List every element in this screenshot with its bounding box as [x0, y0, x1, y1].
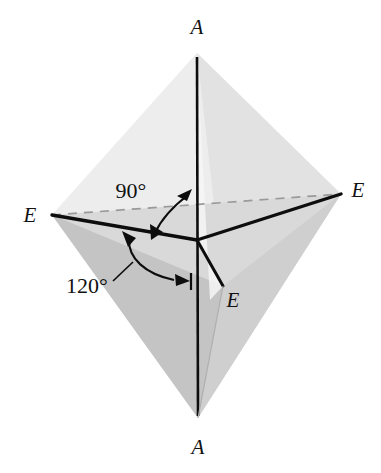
label-equatorial-left: E: [23, 203, 37, 227]
axial-axis-line: [197, 57, 198, 416]
trigonal-bipyramid-diagram: A A E E E 90° 120°: [0, 0, 381, 473]
label-angle-120: 120°: [66, 273, 108, 298]
label-equatorial-right: E: [351, 178, 365, 202]
label-angle-90: 90°: [116, 178, 147, 203]
label-axial-top: A: [189, 15, 204, 39]
label-equatorial-front: E: [226, 288, 240, 312]
figure-container: A A E E E 90° 120°: [0, 0, 381, 473]
label-axial-bottom: A: [190, 435, 205, 459]
